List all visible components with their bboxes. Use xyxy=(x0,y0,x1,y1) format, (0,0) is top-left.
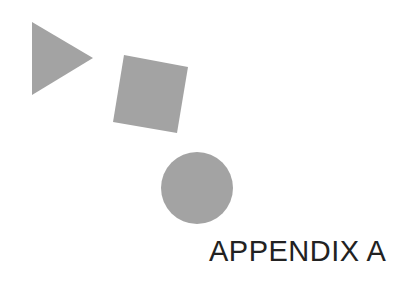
circle-shape xyxy=(161,152,233,224)
triangle-shape xyxy=(32,22,93,95)
appendix-title: APPENDIX A xyxy=(209,237,386,266)
square-shape xyxy=(113,55,188,133)
